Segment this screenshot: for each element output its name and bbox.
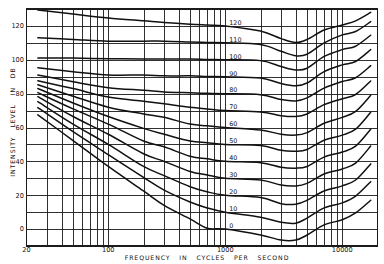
curve-0 bbox=[38, 115, 371, 241]
curve-90 bbox=[38, 50, 371, 86]
y-tick-label: 80 bbox=[16, 90, 24, 98]
curve-label-50: 50 bbox=[229, 137, 237, 145]
x-tick-label: 20 bbox=[22, 246, 30, 254]
curve-label-0: 0 bbox=[229, 222, 233, 230]
curve-label-80: 80 bbox=[229, 86, 237, 94]
loudness-curves bbox=[38, 10, 371, 241]
chart-container: 1201101009080706050403020100 02040608010… bbox=[0, 0, 384, 264]
y-tick-label: 0 bbox=[20, 225, 24, 233]
y-tick-label: 40 bbox=[16, 158, 24, 166]
curve-label-40: 40 bbox=[229, 154, 237, 162]
curve-label-60: 60 bbox=[229, 120, 237, 128]
curve-label-20: 20 bbox=[229, 188, 237, 196]
curve-label-110: 110 bbox=[229, 36, 241, 44]
curve-labels: 1201101009080706050403020100 bbox=[229, 19, 241, 230]
curve-20 bbox=[38, 102, 371, 205]
x-tick-label: 100 bbox=[102, 246, 115, 254]
y-tick-label: 60 bbox=[16, 124, 24, 132]
curve-80 bbox=[38, 66, 371, 101]
y-tick-label: 100 bbox=[11, 56, 24, 64]
curve-40 bbox=[38, 93, 371, 169]
curve-label-90: 90 bbox=[229, 70, 237, 78]
curve-label-120: 120 bbox=[229, 19, 241, 27]
y-tick-label: 120 bbox=[11, 22, 24, 30]
curve-label-100: 100 bbox=[229, 53, 241, 61]
x-axis-title: FREQUENCY IN CYCLES PER SECOND bbox=[125, 254, 290, 261]
curve-label-70: 70 bbox=[229, 103, 237, 111]
equal-loudness-contour-chart: 1201101009080706050403020100 02040608010… bbox=[0, 0, 384, 264]
y-tick-label: 20 bbox=[16, 192, 24, 200]
x-tick-label: 10000 bbox=[332, 246, 353, 254]
y-axis-title: INTENSITY LEVEL IN DB bbox=[9, 67, 16, 176]
curve-label-30: 30 bbox=[229, 171, 237, 179]
curve-label-10: 10 bbox=[229, 205, 237, 213]
